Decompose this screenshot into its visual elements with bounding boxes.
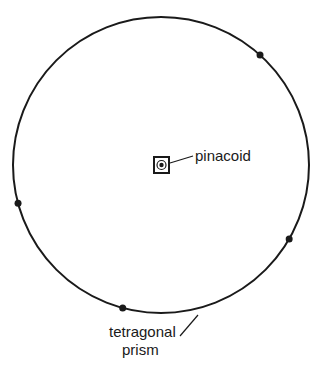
pinacoid-label: pinacoid	[195, 147, 251, 164]
prism-face-pole	[15, 200, 22, 207]
stereonet-diagram: pinacoid tetragonal prism	[0, 0, 321, 367]
prism-label-line2: prism	[122, 341, 159, 358]
prism-face-pole	[257, 52, 264, 59]
prism-face-pole	[286, 236, 293, 243]
prism-leader-line	[180, 315, 198, 336]
prism-label-line1: tetragonal	[109, 323, 176, 340]
pinacoid-pole-icon	[159, 163, 163, 167]
prism-face-pole	[119, 304, 126, 311]
pinacoid-leader-line	[170, 156, 193, 163]
